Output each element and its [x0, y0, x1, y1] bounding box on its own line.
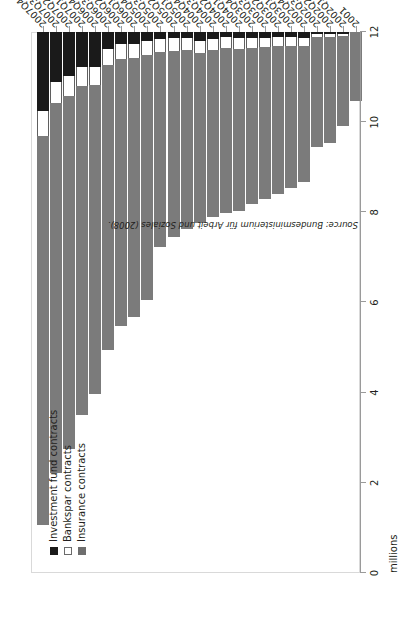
bar-segment-insurance [102, 65, 114, 350]
bar-segment-bankspar [89, 67, 101, 85]
bar-segment-insurance [298, 46, 310, 182]
bar-segment-bankspar [128, 44, 140, 58]
source-note: Source: Bundesministerium für Arbeit und… [108, 220, 358, 230]
bar-segment-fund [220, 32, 232, 37]
bar-segment-insurance [76, 86, 88, 415]
bar-segment-fund [128, 32, 140, 44]
value-tick-label: 8 [369, 209, 380, 215]
value-tick-label: 6 [369, 299, 380, 305]
value-tick [360, 392, 366, 393]
bar-segment-insurance [337, 36, 349, 126]
bar-stack [337, 32, 349, 126]
bar-segment-bankspar [311, 34, 323, 37]
bar-segment-fund [285, 32, 297, 37]
legend-swatch-fund-icon [50, 547, 58, 555]
bar-segment-insurance [89, 85, 101, 394]
bar-stack [63, 32, 75, 449]
value-tick [360, 482, 366, 483]
bar-stack [102, 32, 114, 350]
bar-segment-bankspar [298, 38, 310, 46]
chart-legend: Investment fund contractsBankspar contra… [48, 410, 87, 555]
legend-item[interactable]: Investment fund contracts [48, 410, 59, 555]
bar-segment-bankspar [76, 67, 88, 86]
legend-item[interactable]: Insurance contracts [76, 410, 87, 555]
bar-segment-insurance [220, 48, 232, 213]
bar-stack [115, 32, 127, 326]
legend-item[interactable]: Bankspar contracts [62, 410, 73, 555]
bar-stack [259, 32, 271, 199]
bar-segment-bankspar [141, 41, 153, 55]
bar-segment-fund [154, 32, 166, 39]
bar-segment-bankspar [259, 38, 271, 47]
bar-segment-bankspar [63, 76, 75, 96]
bar-segment-fund [50, 32, 62, 82]
bar-segment-fund [168, 32, 180, 38]
bar-segment-bankspar [285, 37, 297, 46]
bar-segment-insurance [168, 51, 180, 237]
value-tick [360, 121, 366, 122]
axis-title-millions: millions [388, 534, 399, 573]
bar-segment-bankspar [194, 41, 206, 53]
chart-stage: 024681012 2007Q42007Q32007Q22007Q12006Q4… [0, 0, 419, 625]
value-tick-label: 12 [369, 26, 380, 39]
bar-segment-bankspar [233, 38, 245, 48]
bar-segment-fund [37, 32, 49, 111]
bar-stack [233, 32, 245, 211]
value-tick [360, 572, 366, 573]
bar-segment-insurance [115, 59, 127, 326]
bar-segment-insurance [272, 46, 284, 194]
bar-segment-fund [272, 32, 284, 37]
bar-stack [154, 32, 166, 247]
bar-segment-insurance [141, 55, 153, 299]
bar-segment-fund [63, 32, 75, 76]
bar-segment-fund [324, 32, 336, 34]
value-tick [360, 211, 366, 212]
bar-segment-insurance [324, 37, 336, 143]
bar-segment-bankspar [154, 39, 166, 52]
bar-segment-bankspar [102, 49, 114, 65]
bar-segment-bankspar [246, 38, 258, 48]
bar-segment-fund [181, 32, 193, 38]
bar-stack [141, 32, 153, 300]
bar-segment-insurance [207, 50, 219, 217]
bar-segment-fund [194, 32, 206, 41]
bar-stack [50, 32, 62, 473]
bar-segment-insurance [259, 47, 271, 199]
bar-segment-bankspar [272, 37, 284, 46]
bar-segment-insurance [154, 52, 166, 247]
bar-segment-fund [337, 32, 349, 34]
bar-stack [298, 32, 310, 182]
value-axis-line [360, 32, 361, 573]
bar-segment-insurance [194, 53, 206, 223]
bar-segment-insurance [311, 37, 323, 147]
bar-segment-fund [141, 32, 153, 41]
bar-segment-insurance [246, 48, 258, 204]
value-tick [360, 302, 366, 303]
bar-segment-bankspar [168, 38, 180, 51]
bar-stack [76, 32, 88, 415]
bar-segment-fund [233, 32, 245, 38]
bar-stack [194, 32, 206, 223]
bar-segment-bankspar [37, 111, 49, 136]
bar-segment-bankspar [207, 39, 219, 50]
bar-segment-fund [259, 32, 271, 38]
bar-stack [272, 32, 284, 194]
bar-stack [311, 32, 323, 147]
bar-segment-insurance [285, 46, 297, 188]
bar-segment-insurance [63, 96, 75, 449]
value-tick-label: 2 [369, 480, 380, 486]
value-tick [360, 31, 366, 32]
bar-segment-fund [102, 32, 114, 49]
bar-stack [285, 32, 297, 188]
bar-segment-fund [246, 32, 258, 38]
bar-segment-insurance [128, 58, 140, 317]
value-tick-label: 4 [369, 389, 380, 395]
legend-swatch-insurance-icon [78, 547, 86, 555]
bar-stack [220, 32, 232, 213]
bar-stack [207, 32, 219, 217]
bar-segment-fund [298, 32, 310, 38]
bar-stack [181, 32, 193, 229]
legend-label: Investment fund contracts [48, 410, 59, 542]
chart-page: 024681012 2007Q42007Q32007Q22007Q12006Q4… [0, 0, 419, 625]
bar-stack [128, 32, 140, 317]
